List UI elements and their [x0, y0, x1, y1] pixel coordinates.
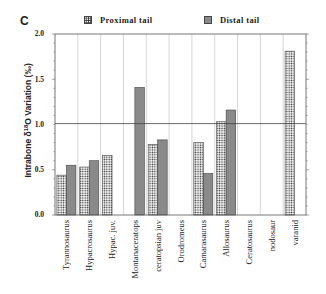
bar-proximal — [103, 155, 113, 215]
bar-distal — [66, 165, 76, 215]
x-tick-label: Montanaceratops — [130, 220, 140, 279]
plot-area — [0, 0, 326, 294]
bar-distal — [89, 161, 99, 215]
x-tick-label: Orodromeus — [176, 220, 186, 263]
x-tick-label: varanid — [290, 220, 300, 246]
x-tick-label: Hypacrosaurus — [84, 220, 94, 271]
bar-proximal — [217, 122, 227, 215]
bar-distal — [226, 110, 236, 215]
bar-distal — [158, 140, 168, 215]
bar-proximal — [80, 167, 90, 215]
bar-proximal — [194, 143, 204, 215]
bar-proximal — [57, 175, 66, 215]
x-tick-label: Hypac. juv. — [107, 220, 117, 259]
bar-proximal — [285, 51, 295, 215]
x-tick-label: Allosaurus — [221, 220, 231, 257]
x-tick-label: Tyrannosaurus — [61, 220, 71, 270]
x-tick-label: nodosaur — [267, 220, 277, 251]
x-tick-label: ceratopsian juv — [153, 220, 163, 272]
bar-proximal — [148, 144, 158, 215]
bar-distal — [135, 87, 145, 215]
bars — [57, 51, 295, 215]
x-tick-label: Camarasaurus — [198, 220, 208, 268]
x-tick-label: Ceratosaurus — [244, 220, 254, 264]
bar-distal — [203, 173, 213, 215]
